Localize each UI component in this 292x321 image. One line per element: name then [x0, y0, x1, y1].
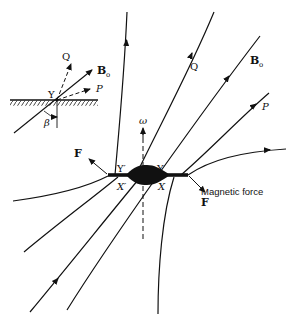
field-line-lower-1: [24, 177, 118, 252]
inset-point-y: [55, 98, 58, 101]
label-x: X: [157, 181, 166, 192]
field-line-top-vertical: [115, 12, 127, 175]
inset-surface-hatch: [10, 101, 98, 106]
label-magnetic-force: Magnetic force: [201, 186, 263, 197]
field-line-lower-4: [158, 177, 174, 314]
label-x-prime: X′: [116, 181, 127, 192]
inset-label-beta: β: [43, 117, 50, 128]
inset-label-b: B: [97, 64, 106, 77]
magnetic-field-diagram: Q B o P Y β ω: [0, 0, 292, 321]
label-b-sub: o: [259, 61, 263, 69]
label-force-left: F: [74, 147, 82, 160]
field-line-lower-2: [30, 180, 138, 312]
inset-q-dashed-line: [57, 64, 71, 100]
field-line-q-arrow: [190, 53, 192, 58]
field-line-left-curve: [13, 176, 108, 201]
inset-label-y: Y: [47, 89, 55, 100]
inset-diagram: Q B o P Y β: [10, 51, 110, 133]
label-b: B: [250, 54, 259, 67]
field-line-right-curve: [188, 149, 286, 175]
label-p: P: [261, 101, 269, 112]
inset-label-b-sub: o: [106, 71, 110, 79]
force-arrow-left: [89, 159, 107, 174]
main-field-lines: [13, 12, 286, 314]
label-y-prime: Y′: [116, 163, 127, 174]
label-y: Y: [156, 163, 164, 174]
inset-label-q: Q: [62, 51, 70, 62]
field-line-p: [181, 93, 269, 175]
label-force-right: F: [201, 196, 209, 209]
label-q: Q: [190, 61, 198, 72]
inset-label-p: P: [95, 83, 103, 94]
label-omega: ω: [139, 115, 147, 126]
